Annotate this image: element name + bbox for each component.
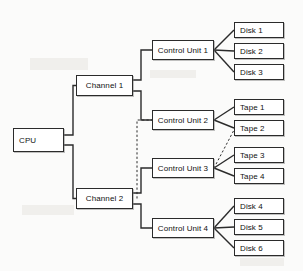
node-cpu[interactable]: CPU (13, 128, 64, 152)
node-dsk4[interactable]: Disk 4 (234, 198, 284, 214)
connection-cu1-dsk3 (214, 50, 234, 72)
block-diagram-canvas: CPUChannel 1Channel 2Control Unit 1Contr… (0, 0, 303, 271)
node-ch2[interactable]: Channel 2 (76, 188, 133, 209)
node-label: Tape 4 (240, 172, 265, 181)
node-dsk6[interactable]: Disk 6 (234, 240, 284, 256)
node-label: Disk 4 (240, 202, 263, 211)
connection-cu2-tp2 (214, 120, 234, 128)
connection-cu1-dsk1 (214, 30, 234, 50)
connection-ch2-cu2 (137, 120, 152, 199)
node-label: CPU (19, 136, 36, 145)
node-label: Disk 2 (240, 47, 263, 56)
node-label: Control Unit 3 (158, 164, 208, 173)
node-tp2[interactable]: Tape 2 (234, 120, 284, 136)
node-dsk2[interactable]: Disk 2 (234, 43, 284, 59)
node-label: Disk 5 (240, 223, 263, 232)
node-tp3[interactable]: Tape 3 (234, 147, 284, 163)
node-label: Control Unit 1 (158, 46, 208, 55)
node-cu3[interactable]: Control Unit 3 (152, 158, 214, 178)
node-label: Tape 1 (240, 103, 265, 112)
connection-cpu-ch1 (64, 86, 76, 136)
node-label: Control Unit 2 (158, 116, 208, 125)
node-tp4[interactable]: Tape 4 (234, 168, 284, 184)
node-label: Disk 1 (240, 26, 263, 35)
node-tp1[interactable]: Tape 1 (234, 99, 284, 115)
node-label: Tape 2 (240, 124, 265, 133)
node-label: Channel 2 (86, 194, 123, 203)
connection-ch2-cu4 (133, 204, 152, 228)
connection-cpu-ch2 (64, 145, 76, 199)
node-label: Channel 1 (86, 81, 123, 90)
node-dsk3[interactable]: Disk 3 (234, 64, 284, 80)
connection-cu3-tp4 (214, 168, 234, 176)
connection-cu4-dsk5 (214, 227, 234, 228)
node-cu4[interactable]: Control Unit 4 (152, 218, 214, 238)
node-label: Disk 6 (240, 244, 263, 253)
node-cu1[interactable]: Control Unit 1 (152, 40, 214, 60)
connection-ch2-cu3 (133, 168, 152, 193)
node-dsk1[interactable]: Disk 1 (234, 22, 284, 38)
node-ch1[interactable]: Channel 1 (76, 75, 133, 96)
connection-ch1-cu2 (133, 91, 152, 120)
connection-ch1-cu1 (133, 50, 152, 80)
connection-cu2-tp1 (214, 107, 234, 120)
connection-cu1-dsk2 (214, 50, 234, 51)
node-label: Control Unit 4 (158, 224, 208, 233)
connection-cu4-dsk4 (214, 206, 234, 228)
node-label: Tape 3 (240, 151, 265, 160)
connection-cu3-tp3 (214, 155, 234, 168)
connection-cu4-dsk6 (214, 228, 234, 248)
node-dsk5[interactable]: Disk 5 (234, 219, 284, 235)
node-cu2[interactable]: Control Unit 2 (152, 110, 214, 130)
node-label: Disk 3 (240, 68, 263, 77)
